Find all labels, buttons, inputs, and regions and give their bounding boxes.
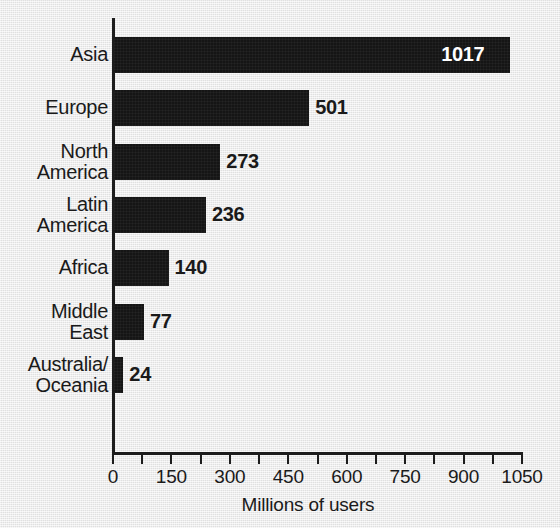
chart-page: Asia1017Europe501NorthAmerica273LatinAme… (0, 0, 560, 528)
x-axis-minor-tick (375, 455, 377, 464)
x-axis-minor-tick (317, 455, 319, 464)
category-label: LatinAmerica (0, 194, 108, 236)
bar-latin-america (114, 197, 206, 233)
category-label-line2: East (0, 322, 108, 343)
x-axis-tick (521, 455, 523, 464)
x-axis-tick-label: 150 (156, 466, 187, 488)
category-label-line2: America (0, 215, 108, 236)
x-axis-tick-label: 450 (273, 466, 304, 488)
x-axis-tick-label: 900 (448, 466, 479, 488)
category-label-line1: Europe (0, 97, 108, 118)
x-axis-minor-tick (141, 455, 143, 464)
bar-value-label: 501 (315, 96, 347, 119)
bar-middle-east (114, 304, 144, 340)
x-axis-tick-label: 300 (214, 466, 245, 488)
x-axis-tick (346, 455, 348, 464)
x-axis-tick (170, 455, 172, 464)
bar-value-label: 77 (150, 310, 172, 333)
category-label: NorthAmerica (0, 141, 108, 183)
x-axis-tick-label: 750 (390, 466, 421, 488)
x-axis-tick (112, 455, 114, 464)
x-axis-tick (463, 455, 465, 464)
bar-europe (114, 90, 309, 126)
category-label: MiddleEast (0, 301, 108, 343)
category-label-line2: Oceania (0, 375, 108, 396)
category-label: Australia/Oceania (0, 354, 108, 396)
category-label-line1: Asia (0, 44, 108, 65)
bar-value-label: 140 (175, 256, 207, 279)
category-label-line1: Australia/ (0, 354, 108, 375)
bar-value-label: 236 (212, 203, 244, 226)
category-label-line1: Middle (0, 301, 108, 322)
x-axis-minor-tick (492, 455, 494, 464)
x-axis-tick (229, 455, 231, 464)
category-label: Africa (0, 257, 108, 278)
bar-africa (114, 250, 169, 286)
category-label-line1: Africa (0, 257, 108, 278)
bar-value-label: 1017 (441, 43, 484, 66)
x-axis-tick (404, 455, 406, 464)
bar-value-label: 24 (129, 363, 151, 386)
x-axis-tick-label: 600 (331, 466, 362, 488)
category-label: Europe (0, 97, 108, 118)
x-axis-tick-label: 0 (108, 466, 118, 488)
category-label-line1: North (0, 141, 108, 162)
bar-value-label: 273 (226, 150, 258, 173)
x-axis-minor-tick (433, 455, 435, 464)
x-axis-minor-tick (200, 455, 202, 464)
x-axis-minor-tick (258, 455, 260, 464)
x-axis-tick-label: 1050 (501, 466, 542, 488)
x-axis-title: Millions of users (0, 494, 560, 516)
bar-north-america (114, 144, 220, 180)
bar-australia-oceania (114, 357, 123, 393)
category-label-line1: Latin (0, 194, 108, 215)
category-label: Asia (0, 44, 108, 65)
x-axis-tick (287, 455, 289, 464)
category-label-line2: America (0, 162, 108, 183)
